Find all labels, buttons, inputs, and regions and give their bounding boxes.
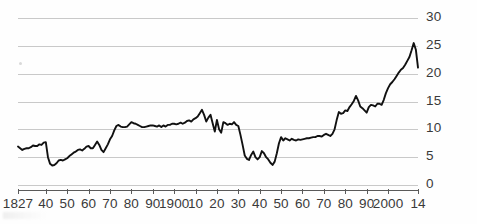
y-axis-label: 10 (426, 120, 441, 135)
x-axis-label: 80 (124, 196, 139, 211)
scan-speck-icon (19, 62, 22, 65)
y-axis-label: 30 (426, 9, 441, 24)
x-axis-tick (260, 189, 261, 194)
x-axis-label: 20 (209, 196, 224, 211)
x-axis-tick (345, 189, 346, 194)
x-axis-tick (153, 189, 154, 194)
y-axis-label: 15 (426, 93, 441, 108)
x-axis-tick (18, 189, 19, 194)
x-axis-label: 40 (252, 196, 267, 211)
x-axis-tick (388, 189, 389, 194)
x-axis-label: 70 (102, 196, 117, 211)
data-line-svg (18, 18, 418, 185)
x-axis-tick (367, 189, 368, 194)
x-axis-tick (89, 189, 90, 194)
x-axis-tick (196, 189, 197, 194)
x-axis-label: 40 (38, 196, 53, 211)
x-axis-label: 70 (316, 196, 331, 211)
x-axis-tick (174, 189, 175, 194)
x-axis-label: 10 (188, 196, 203, 211)
chart-container: 051015202530 182740506070809019001020304… (0, 0, 477, 224)
x-axis-label: 50 (273, 196, 288, 211)
x-axis-tick (110, 189, 111, 194)
scan-smudge-icon (3, 212, 47, 219)
data-series-line (18, 43, 418, 165)
x-axis-label: 60 (81, 196, 96, 211)
x-axis-tick (281, 189, 282, 194)
x-axis-label: 50 (60, 196, 75, 211)
gridline-0 (18, 185, 418, 186)
x-axis-tick (46, 189, 47, 194)
y-axis-label: 5 (426, 148, 434, 163)
x-axis-tick (302, 189, 303, 194)
x-axis-tick (418, 189, 419, 194)
y-axis-label: 20 (426, 65, 441, 80)
x-axis-tick (217, 189, 218, 194)
x-axis-label: 1900 (159, 196, 189, 211)
x-axis-line (18, 190, 418, 191)
x-axis-label: 80 (338, 196, 353, 211)
x-axis-tick (67, 189, 68, 194)
plot-area (18, 18, 418, 185)
x-axis-label: 60 (295, 196, 310, 211)
x-axis-tick (131, 189, 132, 194)
x-axis-label: 1827 (3, 196, 33, 211)
x-axis-label: 2000 (373, 196, 403, 211)
y-axis-label: 0 (426, 176, 434, 191)
x-axis-tick (324, 189, 325, 194)
y-axis-label: 25 (426, 37, 441, 52)
x-axis-label: 30 (231, 196, 246, 211)
x-axis-label: 14 (410, 196, 425, 211)
x-axis-tick (238, 189, 239, 194)
